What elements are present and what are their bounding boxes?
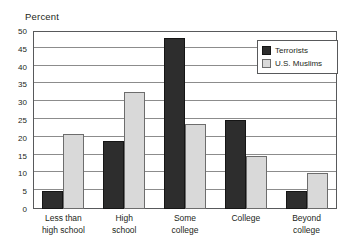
x-axis-label-line: high school (33, 224, 94, 236)
x-axis-label-line: school (94, 224, 155, 236)
y-axis-tick-label: 50 (0, 27, 27, 36)
x-axis-category-label: College (215, 212, 276, 224)
y-axis-tick-label: 15 (0, 151, 27, 160)
y-axis-tick-label: 30 (0, 98, 27, 107)
y-axis-tick-label: 10 (0, 169, 27, 178)
bar (124, 92, 145, 209)
y-axis-tick-label: 0 (0, 205, 27, 214)
bar (286, 191, 307, 209)
x-axis-label-line: college (276, 224, 337, 236)
bar (63, 134, 84, 209)
legend-item-us-muslims: U.S. Muslims (262, 57, 333, 70)
y-axis-tick-label: 20 (0, 133, 27, 142)
y-axis-tick-label: 40 (0, 62, 27, 71)
y-axis-tick-label: 45 (0, 44, 27, 53)
bar (246, 156, 267, 209)
x-axis-label-line: College (231, 213, 260, 223)
bar-group (33, 31, 94, 209)
bar-chart: Percent 05101520253035404550 Terrorists … (0, 0, 347, 251)
bar (164, 38, 185, 209)
bar (225, 120, 246, 209)
x-axis-category-label: Highschool (94, 212, 155, 236)
x-axis-category-label: Less thanhigh school (33, 212, 94, 236)
legend-swatch-icon (262, 46, 271, 55)
bar (103, 141, 124, 209)
bar-group (155, 31, 216, 209)
x-axis-label-line: college (155, 224, 216, 236)
x-axis-label-line: Less than (45, 213, 82, 223)
y-axis-title: Percent (25, 11, 59, 22)
chart-legend: Terrorists U.S. Muslims (257, 40, 338, 74)
bar (185, 124, 206, 209)
legend-item-label: Terrorists (275, 46, 308, 55)
x-axis-category-label: Somecollege (155, 212, 216, 236)
x-axis-category-label: Beyondcollege (276, 212, 337, 236)
y-axis-tick-label: 25 (0, 116, 27, 125)
x-axis-label-line: Some (174, 213, 196, 223)
y-axis-tick-label: 35 (0, 80, 27, 89)
y-axis-tick-labels: 05101520253035404550 (0, 31, 30, 209)
y-axis-tick-label: 5 (0, 187, 27, 196)
bar-group (94, 31, 155, 209)
x-axis-category-labels: Less thanhigh schoolHighschoolSomecolleg… (33, 212, 337, 248)
x-axis-label-line: High (115, 213, 132, 223)
bar (42, 191, 63, 209)
legend-item-terrorists: Terrorists (262, 44, 333, 57)
legend-item-label: U.S. Muslims (275, 59, 322, 68)
legend-swatch-icon (262, 59, 271, 68)
bar (307, 173, 328, 209)
x-axis-label-line: Beyond (292, 213, 321, 223)
